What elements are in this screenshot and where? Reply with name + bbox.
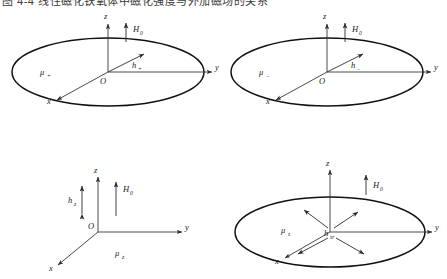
y-axis-label: y: [214, 62, 219, 72]
x-axis-label: x: [274, 256, 279, 266]
panel-top-left: z y x O H 0 h + μ +: [12, 11, 219, 106]
permeability-sublabel: −: [266, 73, 270, 79]
rf-field-label: h: [132, 60, 136, 70]
permeability-label: μ: [114, 248, 119, 258]
rf-field-sublabel: z: [73, 201, 77, 207]
bias-field-label: H: [372, 180, 380, 190]
bias-field-sublabel: 0: [140, 30, 143, 36]
y-axis-label: y: [433, 62, 438, 72]
figure-canvas: z y x O H 0 h + μ + z y x O H 0 h − μ: [0, 0, 447, 279]
rf-field-sublabel: −: [357, 66, 361, 72]
panel-bottom-left: z y x O h z H 0 μ z: [48, 165, 189, 273]
x-axis-label: x: [46, 96, 51, 106]
y-axis-label: y: [434, 222, 439, 232]
x-axis: [58, 232, 98, 265]
rf-arrow-lower-right: [336, 238, 364, 254]
panel-top-right: z y x O H 0 h − μ −: [231, 11, 438, 106]
rf-arrow-lower-left: [298, 238, 328, 254]
z-axis-label: z: [103, 11, 108, 21]
y-axis-label: y: [184, 222, 189, 232]
permeability-sublabel: z: [121, 254, 125, 260]
rf-arrow-upper-left: [304, 210, 328, 228]
rf-field-sublabel: +: [138, 66, 142, 72]
bias-field-sublabel: 0: [359, 30, 362, 36]
x-axis-label: x: [48, 263, 53, 273]
rf-field-label: h: [351, 60, 355, 70]
bias-field-label: H: [122, 184, 130, 194]
z-axis-label: z: [93, 165, 98, 175]
bias-field-label: H: [351, 24, 359, 34]
rf-field-sublabel: sr: [330, 234, 335, 240]
permeability-sublabel: s: [288, 231, 290, 237]
bias-field-sublabel: 0: [130, 190, 133, 196]
z-axis-label: z: [325, 158, 330, 168]
permeability-sublabel: +: [47, 73, 51, 79]
origin-label: O: [319, 76, 325, 86]
x-axis-label: x: [265, 96, 270, 106]
panel-bottom-right: z y x H 0 h sr μ s: [235, 158, 439, 267]
origin-label: O: [88, 221, 94, 231]
origin-label: O: [100, 76, 106, 86]
rf-arrow-upper-right: [334, 212, 358, 228]
permeability-label: μ: [258, 67, 263, 77]
bias-field-label: H: [132, 24, 140, 34]
bias-field-sublabel: 0: [380, 186, 383, 192]
permeability-label: μ: [39, 67, 44, 77]
z-axis-label: z: [322, 11, 327, 21]
rf-field-label: h: [324, 228, 328, 238]
rf-field-label: h: [68, 195, 72, 205]
permeability-label: μ: [280, 225, 285, 235]
